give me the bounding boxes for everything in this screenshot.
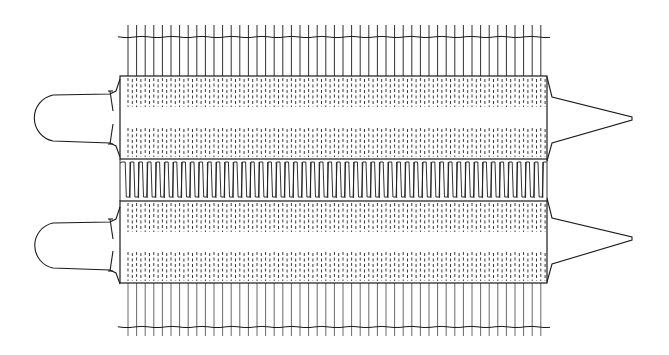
heat-exchanger-drawing [0, 0, 669, 355]
u-bend-headers [34, 79, 120, 284]
serpentine-fin-band [120, 159, 547, 201]
top-fin-array [128, 25, 541, 76]
outlet-nozzles [547, 77, 632, 282]
drawing-canvas [0, 0, 669, 355]
bottom-fin-array [128, 283, 541, 336]
